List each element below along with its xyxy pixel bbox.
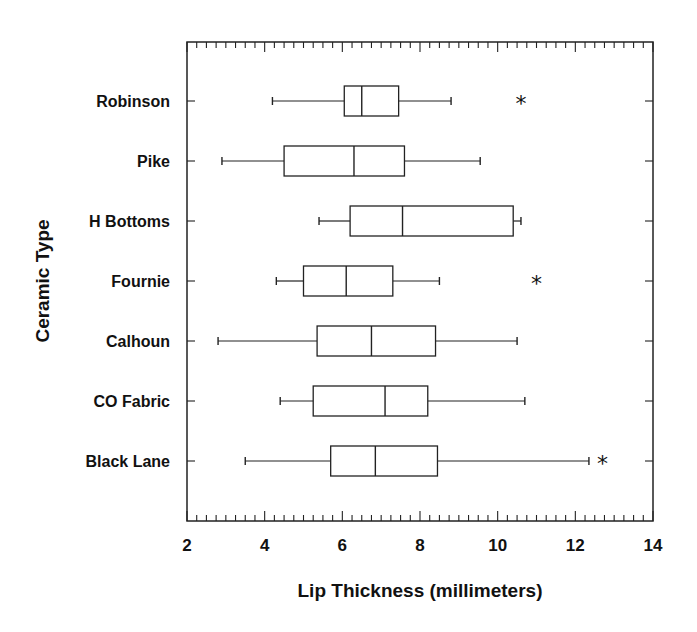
box-fournie: * [276, 266, 542, 296]
box-robinson: * [272, 86, 526, 116]
category-label: H Bottoms [89, 213, 170, 230]
category-label: Robinson [96, 93, 170, 110]
outlier-marker: * [597, 451, 608, 476]
x-tick-label: 2 [182, 536, 191, 555]
x-tick-label: 14 [644, 536, 663, 555]
box-h-bottoms [319, 206, 521, 236]
outlier-marker: * [515, 91, 526, 116]
box-black-lane: * [245, 446, 608, 476]
boxplot-chart: 2468101214 RobinsonPikeH BottomsFournieC… [0, 0, 697, 632]
box-series: *** [218, 86, 608, 476]
category-label: Fournie [111, 273, 170, 290]
category-label: Calhoun [106, 333, 170, 350]
box-co-fabric [280, 386, 525, 416]
x-tick-labels: 2468101214 [182, 536, 663, 555]
y-category-labels: RobinsonPikeH BottomsFournieCalhounCO Fa… [86, 93, 171, 470]
x-tick-label: 6 [338, 536, 347, 555]
x-tick-label: 10 [488, 536, 507, 555]
x-tick-label: 12 [566, 536, 585, 555]
category-label: Pike [137, 153, 170, 170]
category-label: CO Fabric [94, 393, 171, 410]
x-tick-label: 4 [260, 536, 270, 555]
outlier-marker: * [531, 271, 542, 296]
x-axis-label: Lip Thickness (millimeters) [298, 580, 543, 601]
category-label: Black Lane [86, 453, 171, 470]
y-axis-label: Ceramic Type [32, 219, 53, 342]
x-tick-label: 8 [415, 536, 424, 555]
box-pike [222, 146, 480, 176]
box-calhoun [218, 326, 517, 356]
